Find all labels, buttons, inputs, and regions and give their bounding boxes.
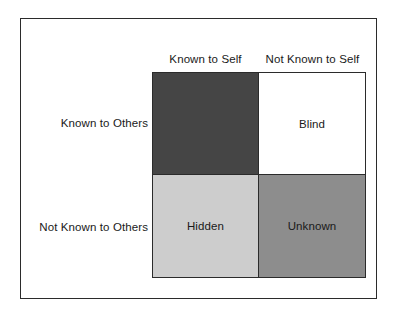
quadrant-hidden-label: Hidden [187,220,224,232]
quadrant-hidden[interactable]: Hidden [153,175,259,277]
row-label-not-known-to-others: Not Known to Others [8,219,148,235]
column-header-known-to-self: Known to Self [152,51,259,67]
quadrant-blind[interactable]: Blind [259,73,365,175]
quadrant-grid: Blind Hidden Unknown [152,72,366,278]
row-label-known-to-others: Known to Others [8,115,148,131]
quadrant-blind-label: Blind [299,118,325,130]
quadrant-unknown-label: Unknown [288,220,337,232]
johari-window-figure: Known to Self Not Known to Self Known to… [0,0,397,317]
column-header-not-known-to-self: Not Known to Self [259,51,366,67]
quadrant-open[interactable] [153,73,259,175]
quadrant-unknown[interactable]: Unknown [259,175,365,277]
